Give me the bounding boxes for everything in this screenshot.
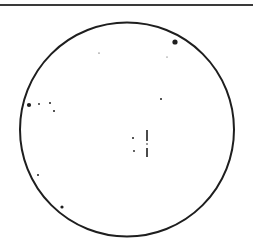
star-5 bbox=[38, 103, 40, 105]
star-11 bbox=[37, 174, 39, 176]
star-12 bbox=[60, 205, 63, 208]
star-4 bbox=[27, 103, 31, 107]
field-of-view-circle bbox=[20, 23, 234, 237]
star-group bbox=[27, 39, 178, 208]
star-0 bbox=[172, 39, 177, 44]
star-9 bbox=[133, 150, 135, 152]
field-of-view-diagram bbox=[0, 0, 253, 248]
star-7 bbox=[53, 110, 55, 112]
star-3 bbox=[160, 98, 162, 100]
star-8 bbox=[132, 137, 134, 139]
star-1 bbox=[98, 52, 99, 53]
star-10 bbox=[146, 143, 148, 145]
star-2 bbox=[167, 57, 168, 58]
star-6 bbox=[49, 102, 51, 104]
